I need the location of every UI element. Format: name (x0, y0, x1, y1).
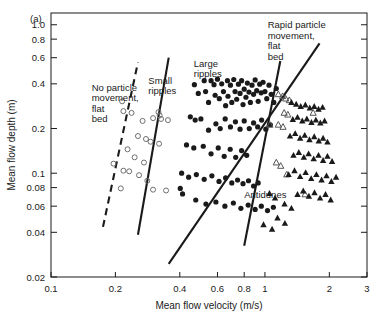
point-filled-circle (221, 89, 226, 94)
point-filled-circle (201, 144, 206, 149)
point-filled-circle (218, 126, 223, 131)
point-filled-circle (180, 191, 185, 196)
point-filled-circle (233, 155, 238, 160)
y-tick-label: 0.02 (27, 272, 46, 283)
x-tick-label: 0.8 (238, 283, 251, 294)
x-axis-title: Mean flow velocity (m/s) (155, 300, 262, 311)
point-filled-circle (253, 77, 258, 82)
point-filled-circle (188, 114, 193, 119)
point-filled-circle (244, 153, 249, 158)
point-filled-circle (193, 197, 198, 202)
point-filled-circle (259, 204, 264, 209)
point-filled-circle (240, 102, 245, 107)
point-filled-circle (206, 128, 211, 133)
y-tick-label: 0.08 (27, 182, 46, 193)
point-filled-circle (209, 173, 214, 178)
y-tick-label: 1.0 (32, 19, 45, 30)
point-filled-circle (231, 200, 236, 205)
point-filled-circle (203, 89, 208, 94)
y-tick-label: 0.06 (27, 201, 46, 212)
point-filled-circle (213, 121, 218, 126)
point-filled-circle (206, 100, 211, 105)
point-filled-circle (232, 89, 237, 94)
point-filled-circle (234, 97, 239, 102)
point-filled-circle (264, 96, 269, 101)
x-tick-label: 0.1 (44, 283, 57, 294)
point-filled-circle (223, 103, 228, 108)
x-tick-label: 1 (262, 283, 267, 294)
point-filled-circle (240, 181, 245, 186)
point-filled-circle (228, 83, 233, 88)
point-filled-circle (237, 127, 242, 132)
point-filled-circle (208, 151, 213, 156)
point-filled-circle (228, 124, 233, 129)
point-filled-circle (196, 91, 201, 96)
point-filled-circle (247, 126, 252, 131)
point-filled-circle (222, 204, 227, 209)
point-filled-circle (216, 145, 221, 150)
point-filled-circle (256, 180, 261, 185)
point-filled-circle (179, 171, 184, 176)
point-filled-circle (246, 202, 251, 207)
point-filled-circle (245, 80, 250, 85)
point-filled-circle (225, 78, 230, 83)
y-tick-label: 0.04 (27, 227, 46, 238)
point-filled-circle (269, 92, 274, 97)
point-filled-circle (225, 94, 230, 99)
point-filled-circle (229, 100, 234, 105)
point-filled-circle (194, 172, 199, 177)
point-filled-circle (254, 88, 259, 93)
point-filled-circle (223, 116, 228, 121)
point-filled-circle (184, 142, 189, 147)
x-tick-label: 3 (364, 283, 369, 294)
point-filled-circle (229, 180, 234, 185)
point-filled-circle (259, 117, 264, 122)
point-filled-circle (253, 207, 258, 212)
point-filled-circle (193, 117, 198, 122)
x-tick-label: 0.4 (173, 283, 186, 294)
point-filled-circle (191, 145, 196, 150)
point-filled-circle (178, 186, 183, 191)
point-filled-circle (274, 86, 279, 91)
annotation-large: Largeripples (194, 58, 222, 80)
point-filled-circle (238, 206, 243, 211)
x-tick-label: 2 (327, 283, 332, 294)
point-filled-circle (242, 87, 247, 92)
point-filled-circle (251, 120, 256, 125)
y-tick-label: 0.1 (32, 168, 45, 179)
y-tick-label: 0.8 (32, 34, 45, 45)
x-tick-label: 0.6 (211, 283, 224, 294)
point-filled-circle (256, 99, 261, 104)
point-filled-circle (262, 89, 267, 94)
point-filled-circle (255, 124, 260, 129)
point-filled-circle (222, 154, 227, 159)
y-tick-label: 0.6 (32, 52, 45, 63)
y-tick-label: 0.2 (32, 123, 45, 134)
point-filled-circle (237, 91, 242, 96)
point-filled-circle (271, 100, 276, 105)
point-filled-circle (242, 118, 247, 123)
point-filled-circle (233, 119, 238, 124)
x-tick-label: 0.2 (109, 283, 122, 294)
point-filled-circle (216, 179, 221, 184)
point-filled-circle (213, 93, 218, 98)
point-filled-circle (203, 201, 208, 206)
point-filled-circle (239, 148, 244, 153)
point-filled-circle (249, 83, 254, 88)
point-filled-circle (246, 89, 251, 94)
point-filled-circle (223, 175, 228, 180)
y-tick-label: 0.4 (32, 78, 45, 89)
point-filled-circle (202, 177, 207, 182)
point-filled-circle (219, 81, 224, 86)
point-filled-circle (211, 82, 216, 87)
point-filled-circle (217, 96, 222, 101)
annotation-antidunes: Antidunes (244, 189, 287, 200)
bedform-phase-diagram: (a) 0.10.20.40.60.8123 0.020.040.060.080… (0, 0, 380, 323)
point-filled-circle (248, 100, 253, 105)
point-filled-circle (265, 208, 270, 213)
point-filled-circle (186, 175, 191, 180)
point-filled-circle (271, 205, 276, 210)
point-filled-circle (251, 183, 256, 188)
point-filled-circle (213, 199, 218, 204)
point-filled-circle (192, 82, 197, 87)
